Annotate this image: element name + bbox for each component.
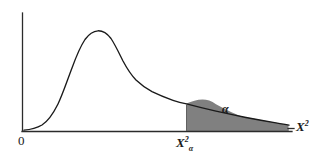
chi-square-distribution-chart	[0, 0, 321, 166]
alpha-label: α	[222, 103, 229, 115]
x-axis-label-superscript: 2	[305, 119, 309, 128]
critical-value-superscript: 2	[185, 135, 189, 144]
critical-value-subscript: α	[189, 144, 193, 153]
critical-value-label: X2α	[176, 136, 193, 149]
critical-value-base: X	[176, 135, 185, 150]
x-axis-label: X2	[296, 120, 309, 133]
origin-label: 0	[18, 134, 25, 147]
density-curve	[24, 31, 289, 130]
x-axis-label-base: X	[296, 119, 305, 134]
chi-square-figure-container: 0 X2α α X2	[0, 0, 321, 166]
